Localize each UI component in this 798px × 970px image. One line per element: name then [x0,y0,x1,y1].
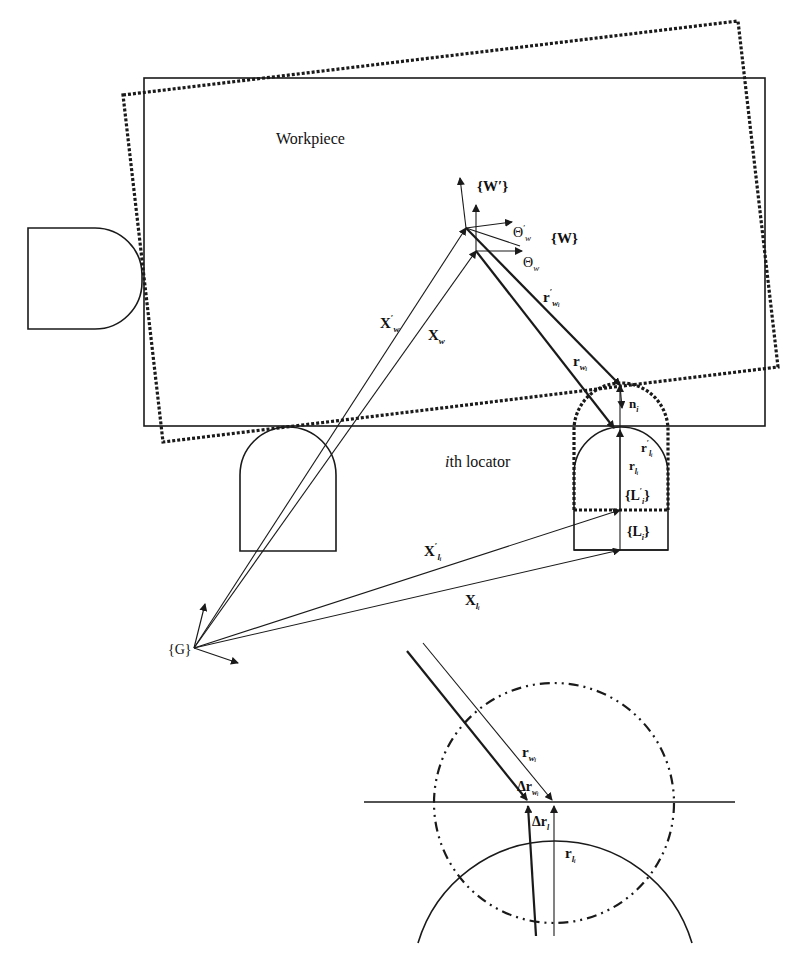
workpiece-label: Workpiece [276,130,345,148]
ith-locator-nominal [574,427,668,550]
detail-vector-r-w-displaced [407,651,527,800]
r-l-label: rlᵢ [629,458,639,476]
frame-W-prime-label: {W′} [477,178,508,194]
frame-L-prime-label: {L′i} [625,487,650,506]
X-l-label: Xlᵢ [465,592,480,611]
X-w-prime-label: X′w [380,313,400,334]
workpiece-nominal-outline [144,78,765,426]
side-locator [28,228,142,329]
X-l-prime-label: X′lᵢ [424,541,442,562]
r-l-prime-label: r′lᵢ [641,439,653,458]
detail-vector-r-w [423,643,552,800]
workpiece-frame-prime-axis-y [460,178,466,228]
global-frame-axis-x [194,648,238,663]
workpiece-frame-prime-axis-x [466,222,512,228]
r-w-prime-label: r′wᵢ [543,287,560,308]
vector-X-l [194,550,620,648]
detail-locator-arc [418,841,692,943]
frame-G-label: {G} [168,642,192,657]
locator-label: ith locator [445,453,511,470]
vector-X-w-prime [194,228,466,648]
detail-delta-r-l-label: Δrl [532,814,550,832]
fixture-locating-diagram: Workpiece {W′} {W} Θ′w Θw X′w Xw r′wᵢ rw… [0,0,798,970]
detail-r-l-label: rlᵢ [565,845,576,864]
theta-w-prime-label: Θ′w [513,223,531,243]
n-label: ni [629,396,639,414]
detail-delta-r-w-label: Δrwᵢ [517,779,539,797]
r-w-label: rwᵢ [573,353,588,372]
workpiece-displaced-outline [123,21,778,442]
bottom-locator-middle [240,427,336,551]
detail-r-w-label: rwᵢ [522,744,537,763]
vector-X-w [194,251,476,648]
frame-L-label: {Li} [627,524,650,542]
vector-r-w-prime [466,228,620,385]
global-frame-axis-y [194,604,205,648]
frame-W-label: {W} [551,230,578,246]
X-w-label: Xw [428,327,446,346]
theta-w-label: Θw [523,255,539,273]
vector-X-l-prime [194,510,620,648]
